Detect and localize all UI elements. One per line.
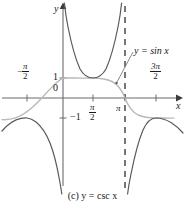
x-tick-label-neg-pi-over-2: −π2 (17, 62, 29, 82)
figure-caption: (c) y = csc x (0, 190, 185, 201)
csc-branch-middle (64, 3, 121, 78)
y-tick-label-one: 1 (53, 72, 58, 82)
sine-curve (2, 78, 174, 120)
fraction-pi-over-2: π2 (22, 62, 29, 82)
x-tick-label-pi: π (116, 104, 121, 113)
x-tick-label-3pi-over-2: 3π2 (150, 62, 161, 82)
axes-group (2, 3, 183, 187)
fraction-pi-over-2: π2 (89, 103, 96, 123)
sine-curve-annotation-label: y = sin x (134, 46, 169, 56)
fraction-denominator: 2 (150, 72, 161, 81)
y-axis-label: y (54, 4, 58, 14)
csc-branch-left (2, 118, 62, 194)
csc-branch-right (128, 118, 183, 194)
fraction-denominator: 2 (89, 113, 96, 122)
origin-label: 0 (53, 83, 58, 93)
figure-container: y x 0 1 −1 −π2 π2 π 3π2 y = sin x (c) y … (0, 0, 185, 207)
fraction-3pi-over-2: 3π2 (150, 62, 161, 82)
y-tick-label-negative-one: −1 (70, 112, 81, 122)
x-axis-label: x (176, 101, 180, 111)
fraction-denominator: 2 (22, 72, 29, 81)
x-tick-label-pi-over-2: π2 (89, 103, 96, 123)
